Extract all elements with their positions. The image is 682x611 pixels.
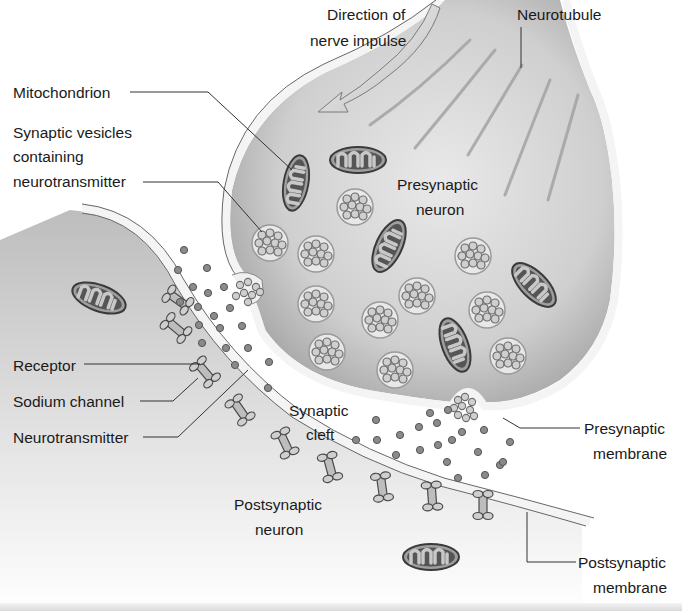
label-vesicles-line1: Synaptic vesicles (13, 124, 132, 141)
bottom-edge-strip (0, 603, 682, 611)
label-vesicles-line3: neurotransmitter (13, 173, 126, 190)
label-direction-line2: nerve impulse (310, 32, 407, 49)
label-postsynaptic-membrane-line2: membrane (593, 579, 667, 596)
label-presynaptic-membrane-line1: Presynaptic (584, 420, 665, 437)
label-receptor: Receptor (13, 357, 76, 374)
label-mitochondrion: Mitochondrion (13, 84, 110, 101)
synapse-diagram: Direction of nerve impulse Neurotubule M… (0, 0, 682, 611)
label-neurotubule: Neurotubule (517, 6, 601, 23)
label-direction-line1: Direction of (327, 6, 406, 23)
label-vesicles-line2: containing (13, 148, 84, 165)
label-presynaptic-neuron-line1: Presynaptic (397, 176, 478, 193)
label-postsynaptic-neuron-line1: Postsynaptic (234, 496, 322, 513)
label-presynaptic-membrane-line2: membrane (593, 445, 667, 462)
label-synaptic-cleft-line2: cleft (306, 426, 335, 443)
label-presynaptic-neuron-line2: neuron (416, 201, 464, 218)
label-neurotransmitter: Neurotransmitter (13, 429, 128, 446)
label-postsynaptic-membrane-line1: Postsynaptic (578, 554, 666, 571)
label-synaptic-cleft-line1: Synaptic (289, 402, 349, 419)
label-postsynaptic-neuron-line2: neuron (255, 521, 303, 538)
label-sodium-channel: Sodium channel (13, 393, 124, 410)
